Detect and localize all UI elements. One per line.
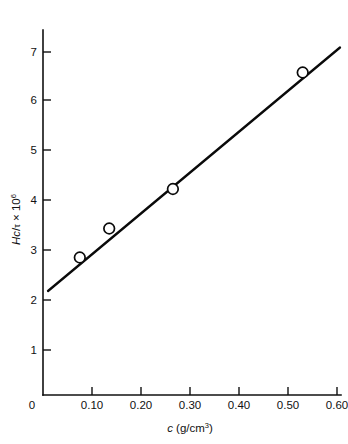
data-point-marker	[104, 223, 115, 234]
x-tick-label-010: 0.10	[81, 399, 103, 411]
scatter-plot-svg: 1 2 3 4 5 6 7 0 0.10 0.20 0.30 0.40 0.50…	[0, 0, 348, 444]
y-tick-marks	[43, 52, 51, 350]
chart-figure: 1 2 3 4 5 6 7 0 0.10 0.20 0.30 0.40 0.50…	[0, 0, 348, 444]
y-tick-label-7: 7	[31, 46, 37, 58]
x-tick-labels: 0 0.10 0.20 0.30 0.40 0.50 0.60	[29, 399, 348, 411]
y-axis-title-times: × 10	[10, 198, 22, 224]
y-tick-labels: 1 2 3 4 5 6 7	[31, 46, 38, 356]
y-tick-label-6: 6	[31, 94, 37, 106]
x-axis-title: c (g/cm3)	[167, 421, 213, 434]
y-tick-label-3: 3	[31, 244, 37, 256]
y-tick-label-1: 1	[31, 344, 37, 356]
x-tick-label-030: 0.30	[179, 399, 201, 411]
x-tick-label-0: 0	[29, 399, 35, 411]
y-axis-title-exponent: 6	[9, 194, 18, 198]
x-axis-title-group: c (g/cm3)	[167, 421, 213, 434]
fit-line-group	[48, 48, 340, 292]
y-axis-title-symbol: Hc	[10, 231, 22, 245]
y-tick-label-4: 4	[31, 194, 38, 206]
x-axis-title-units-close: )	[209, 422, 213, 434]
x-axis-title-units: (g/cm	[176, 422, 205, 434]
x-tick-label-060: 0.60	[326, 399, 348, 411]
x-tick-label-040: 0.40	[228, 399, 250, 411]
data-point-marker	[168, 184, 179, 195]
data-point-marker	[297, 67, 308, 78]
y-axis-title-group: Hc/τ × 106	[9, 194, 22, 245]
x-tick-label-050: 0.50	[277, 399, 299, 411]
x-tick-marks	[92, 387, 337, 395]
y-axis-title: Hc/τ × 106	[9, 194, 22, 245]
x-tick-label-020: 0.20	[130, 399, 152, 411]
y-tick-label-2: 2	[31, 294, 37, 306]
data-points-group	[75, 67, 309, 263]
regression-line	[48, 48, 340, 292]
y-tick-label-5: 5	[31, 144, 37, 156]
data-point-marker	[75, 252, 86, 263]
